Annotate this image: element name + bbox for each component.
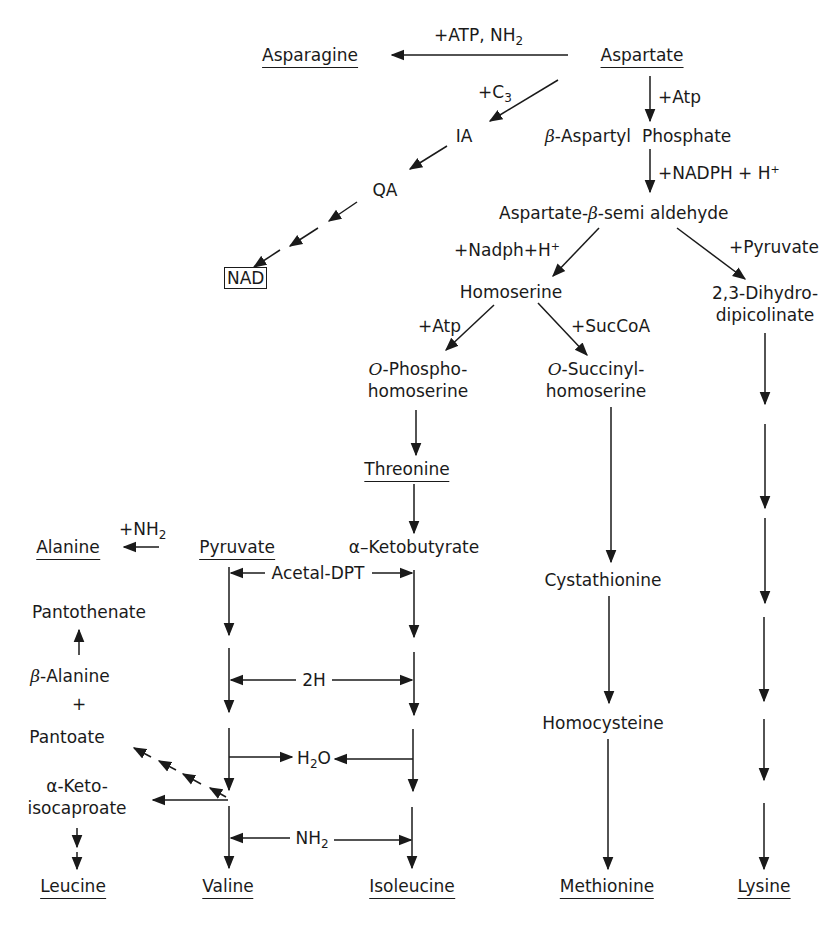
node-o-phosphohomoserine: O-Phospho-homoserine [368,358,468,402]
node-asparagine: Asparagine [262,45,358,68]
label-nh2-alanine-sub: 2 [159,528,167,542]
label-atp-nh2: +ATP, NH2 [434,25,523,51]
label-atp-nh2-sub: 2 [516,34,524,48]
node-methionine: Methionine [560,876,654,899]
label-acetal-dpt: Acetal-DPT [272,563,365,583]
node-b-alanine-text: -Alanine [40,666,110,686]
label-nadph-2: +Nadph+H+ [454,237,560,260]
node-o-succinylhomoserine: O-Succinyl-homoserine [546,358,646,402]
node-ia: IA [456,126,473,146]
node-cystathionine: Cystathionine [544,570,661,590]
label-h2o-o: O [318,748,331,768]
label-pyruvate-add: +Pyruvate [729,237,819,257]
arrow-qa-dash3 [254,250,280,267]
asa-text-2: -semi aldehyde [598,203,729,223]
node-ketoiso-line1: α-Keto- [27,775,126,797]
o-succinyl-text: -Succinyl- [562,359,645,379]
node-homocysteine: Homocysteine [542,713,664,733]
node-b-alanine: β-Alanine [30,666,109,686]
arrow-pantoate-dash2 [183,774,201,784]
label-succoa: +SucCoA [571,316,650,336]
label-nh2-text: NH [295,828,321,848]
node-pantothenate: Pantothenate [32,602,146,622]
o-prefix: O [369,359,383,379]
label-c3: +C3 [478,82,512,108]
label-nh2-alanine: +NH2 [119,519,166,545]
node-aspartate-semialdehyde: Aspartate-β-semi aldehyde [499,203,728,223]
node-alanine: Alanine [36,537,100,560]
label-atp-nh2-text: +ATP, NH [434,25,516,45]
label-nadph-sup: + [771,163,780,176]
label-c3-text: +C [478,82,504,102]
label-nadph-text: +NADPH + H [658,163,771,183]
node-dhdp-line1: 2,3-Dihydro- [712,282,818,304]
arrow-qa-dash2 [290,228,318,246]
node-o-succinyl-line1: O-Succinyl- [546,358,646,380]
node-pyruvate: Pyruvate [199,537,275,560]
node-threonine: Threonine [364,459,449,482]
node-qa: QA [372,180,397,200]
node-lysine: Lysine [738,876,791,899]
arrow-pantoate-dash3 [159,761,176,770]
arrow-pantoate-dash1 [210,788,226,797]
label-nadph2-text: +Nadph+H [454,240,551,260]
node-aspartate: Aspartate [601,45,684,68]
beta-symbol: β [545,126,555,146]
arrow-ia-qa [410,146,447,169]
label-nh2: NH2 [295,828,328,854]
beta-symbol: β [30,666,40,686]
plus-sign: + [72,694,86,714]
node-valine: Valine [202,876,253,899]
label-h2o: H2O [297,748,331,774]
node-pantoate: Pantoate [29,727,104,747]
node-leucine: Leucine [40,876,106,899]
node-b-aspartyl-phosphate-text: -Aspartyl Phosphate [555,126,731,146]
label-nadph2-sup: + [551,240,560,253]
label-atp-1: +Atp [658,87,701,107]
node-dhdp: 2,3-Dihydro-dipicolinate [712,282,818,326]
pathway-diagram: Asparagine +ATP, NH2 Aspartate +C3 +Atp … [0,0,839,926]
label-nh2-alanine-text: +NH [119,519,159,539]
beta-symbol: β [588,203,598,223]
label-atp-2: +Atp [418,316,461,336]
node-ketoisocaproate: α-Keto-isocaproate [27,775,126,819]
label-c3-sub: 3 [504,91,512,105]
node-o-phospho-line2: homoserine [368,380,468,402]
node-homoserine: Homoserine [460,282,562,302]
label-2h: 2H [302,670,326,690]
node-b-aspartyl-phosphate: β-Aspartyl Phosphate [545,126,731,146]
node-o-succinyl-line2: homoserine [546,380,646,402]
node-dhdp-line2: dipicolinate [712,304,818,326]
label-nadph: +NADPH + H+ [658,160,780,183]
label-nh2-sub: 2 [321,837,329,851]
arrow-pantoate-dash4 [134,748,151,757]
label-h2o-h: H [297,748,310,768]
node-ketobutyrate: α–Ketobutyrate [349,537,479,557]
node-ketoiso-line2: isocaproate [27,797,126,819]
node-isoleucine: Isoleucine [369,876,455,899]
asa-text-1: Aspartate- [499,203,588,223]
o-phospho-text: -Phospho- [383,359,468,379]
node-o-phospho-line1: O-Phospho- [368,358,468,380]
node-nad: NAD [224,267,267,289]
o-prefix: O [548,359,562,379]
arrow-qa-dash1 [329,202,357,221]
